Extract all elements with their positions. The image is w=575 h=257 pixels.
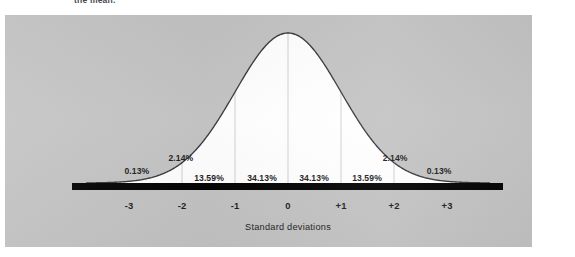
x-tick-label-minus1: -1: [231, 200, 240, 211]
percent-label-band-p2-p3: 13.59%: [352, 173, 382, 183]
percent-label-band-p4-p5: 0.13%: [427, 166, 452, 176]
x-tick-label-0: 0: [285, 200, 290, 211]
percent-label-band-p3-p4: 2.14%: [383, 153, 408, 163]
percent-label-band-m1-m0: 13.59%: [194, 173, 224, 183]
x-axis-title: Standard deviations: [245, 222, 331, 232]
x-tick-label-minus2: -2: [178, 200, 187, 211]
caption-fragment-text: the mean.: [74, 0, 254, 4]
chart-panel: 0.13%2.14%13.59%34.13%34.13%13.59%2.14%0…: [5, 15, 532, 247]
x-tick-label-plus2: +2: [388, 200, 399, 211]
x-tick-label-minus3: -3: [125, 200, 134, 211]
percent-label-band-m2-m1: 2.14%: [168, 153, 193, 163]
percent-label-band-0-p1: 34.13%: [247, 173, 277, 183]
percent-label-band-m3-m2: 0.13%: [124, 166, 149, 176]
baseline-axis-bar: [72, 183, 503, 190]
normal-distribution-figure: the mean. 0.13%2.14%13.59%34.13%34.13%13…: [0, 0, 575, 257]
normal-curve-plot: [5, 15, 532, 247]
percent-label-band-p1-p2: 34.13%: [299, 173, 329, 183]
x-tick-label-plus3: +3: [441, 200, 452, 211]
x-tick-label-plus1: +1: [335, 200, 346, 211]
